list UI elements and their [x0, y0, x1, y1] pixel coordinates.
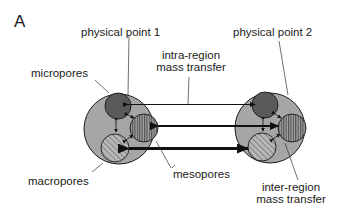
macropore-2 [248, 133, 276, 161]
label-intra-region: intra-region mass transfer [150, 49, 232, 73]
leader-physical-point-2 [279, 41, 288, 95]
label-inter-region-line2: mass transfer [250, 193, 332, 205]
mesopore-1 [130, 114, 158, 142]
leader-mesopores [156, 141, 171, 168]
micropore-1 [105, 93, 131, 119]
physical-point-1-group [84, 93, 158, 164]
leader-intra-region [188, 77, 189, 104]
micropore-2 [252, 92, 278, 118]
physical-point-2-group [235, 92, 306, 163]
label-physical-point-1: physical point 1 [81, 26, 160, 38]
label-intra-region-line2: mass transfer [150, 61, 232, 73]
label-physical-point-2: physical point 2 [233, 26, 312, 38]
label-macropores: macropores [28, 175, 89, 187]
label-inter-region-line1: inter-region [250, 181, 332, 193]
leader-physical-point-1 [128, 35, 129, 96]
macropore-1 [101, 134, 129, 162]
mesopore-2 [278, 114, 306, 142]
leader-macropores [92, 163, 103, 172]
label-inter-region: inter-region mass transfer [250, 181, 332, 205]
leader-micropores [95, 80, 109, 93]
panel-letter: A [14, 12, 25, 32]
label-micropores: micropores [31, 67, 88, 79]
label-mesopores: mesopores [173, 168, 230, 180]
label-intra-region-line1: intra-region [150, 49, 232, 61]
